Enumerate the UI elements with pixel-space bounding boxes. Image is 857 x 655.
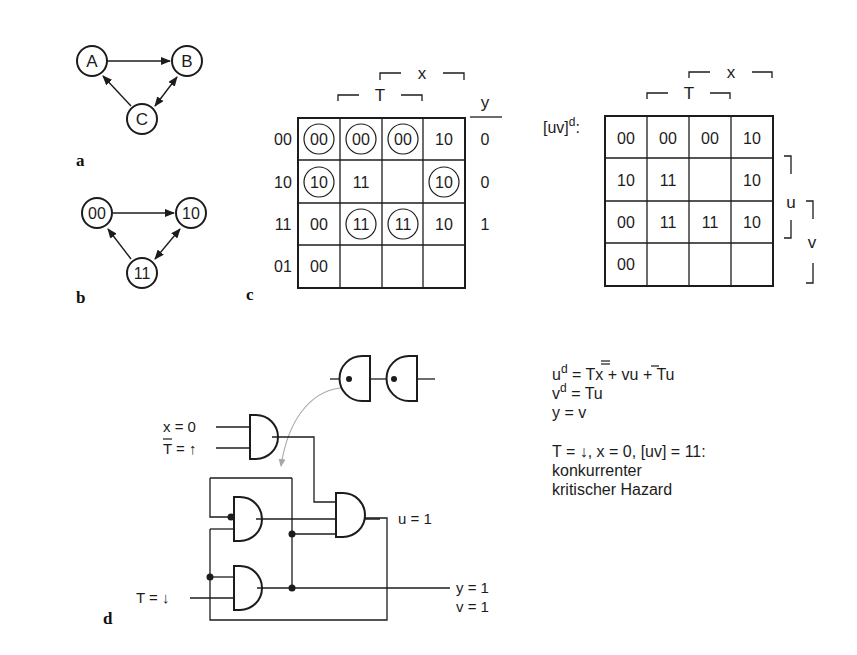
map-cell: 00 bbox=[617, 214, 635, 231]
map-cell: 00 bbox=[617, 130, 635, 147]
table-cell: 10 bbox=[435, 174, 453, 191]
state-node-11: 11 bbox=[127, 258, 157, 288]
row-label: 10 bbox=[274, 174, 292, 191]
map-cell: 10 bbox=[743, 172, 761, 189]
hazard-condition: T = ↓, x = 0, [uv] = 11: bbox=[552, 443, 706, 460]
equation-vd: vd = Tu bbox=[552, 381, 603, 402]
edge-11-to-00 bbox=[108, 229, 131, 259]
table-cell: 00 bbox=[310, 258, 328, 275]
input-label-x: x = 0 bbox=[163, 418, 196, 435]
map-cell: 10 bbox=[743, 130, 761, 147]
svg-text:11: 11 bbox=[134, 265, 151, 282]
row-label: 01 bbox=[274, 258, 292, 275]
bracket-t-right bbox=[401, 95, 422, 101]
bracket-u-bottom bbox=[784, 220, 791, 238]
row-label: 00 bbox=[274, 131, 292, 148]
table-cell: 10 bbox=[435, 131, 453, 148]
table-cell: 00 bbox=[310, 131, 328, 148]
figure-canvas: A B C a 00 10 11 b bbox=[0, 0, 857, 655]
map-cell: 11 bbox=[702, 214, 719, 231]
row-label-v: v bbox=[808, 233, 817, 252]
state-node-b: B bbox=[172, 46, 202, 76]
row-label-u: u bbox=[786, 193, 795, 212]
panel-label-c: c bbox=[246, 285, 254, 304]
table-cell: 00 bbox=[310, 216, 328, 233]
bracket-x-left bbox=[380, 73, 401, 80]
output-value: 0 bbox=[481, 131, 490, 148]
equation-y: y = v bbox=[552, 404, 586, 421]
column-label-t: T bbox=[375, 86, 385, 105]
table-cell: 10 bbox=[310, 174, 328, 191]
map-cell: 10 bbox=[617, 172, 635, 189]
state-node-10: 10 bbox=[176, 198, 206, 228]
hazard-text-line2: kritischer Hazard bbox=[552, 481, 672, 498]
output-value: 1 bbox=[481, 216, 490, 233]
input-label-t: T = ↓ bbox=[136, 589, 170, 606]
edge-11-10-bidirectional bbox=[155, 229, 180, 259]
map-cell: 00 bbox=[617, 256, 635, 273]
bracket-v-top bbox=[806, 201, 813, 219]
table-cell: 00 bbox=[394, 131, 412, 148]
svg-text:B: B bbox=[181, 52, 192, 71]
column-label-x: x bbox=[727, 63, 736, 82]
panel-d-circuit bbox=[190, 356, 450, 620]
svg-text:A: A bbox=[86, 52, 98, 71]
table-cell: 11 bbox=[353, 174, 370, 191]
map-cell: 00 bbox=[701, 130, 719, 147]
table-cell: 11 bbox=[395, 216, 412, 233]
output-value: 0 bbox=[481, 174, 490, 191]
panel-c-flow-table: x T y 00 10 11 01 00 00 00 10 10 bbox=[246, 64, 502, 304]
inverter-chain bbox=[330, 356, 435, 401]
map-title: [uv]d: bbox=[543, 115, 580, 136]
bracket-t-left bbox=[338, 95, 359, 101]
output-label-u: u = 1 bbox=[398, 510, 432, 527]
hazard-text-line1: konkurrenter bbox=[552, 462, 642, 479]
map-cell: 11 bbox=[660, 214, 677, 231]
panel-label-a: a bbox=[76, 151, 85, 170]
output-label-y: y = 1 bbox=[456, 579, 489, 596]
output-label-v: v = 1 bbox=[456, 598, 489, 615]
table-cell: 00 bbox=[352, 131, 370, 148]
or-gate-u bbox=[336, 493, 365, 537]
svg-text:10: 10 bbox=[182, 205, 200, 222]
bracket-u-top bbox=[784, 156, 791, 174]
equations-block: ud = Tx + vu + Tu vd = Tu y = v T = ↓, x… bbox=[552, 361, 706, 498]
panel-label-d: d bbox=[103, 609, 113, 628]
map-cell: 00 bbox=[659, 130, 677, 147]
edge-c-to-a bbox=[103, 76, 131, 106]
state-node-c: C bbox=[127, 104, 157, 134]
pointer-arrow bbox=[281, 388, 340, 466]
table-cell: 11 bbox=[353, 216, 370, 233]
next-state-karnaugh-map: x T [uv]d: 00 00 00 10 10 11 10 00 11 11… bbox=[543, 63, 817, 286]
edge-c-b-bidirectional bbox=[155, 77, 177, 106]
output-header-y: y bbox=[481, 93, 490, 112]
bracket-v-bottom bbox=[806, 263, 813, 283]
row-label: 11 bbox=[275, 216, 292, 233]
map-cell: 10 bbox=[743, 214, 761, 231]
column-label-t: T bbox=[684, 84, 694, 103]
state-node-00: 00 bbox=[82, 198, 112, 228]
equation-ud: ud = Tx + vu + Tu bbox=[552, 362, 674, 383]
table-cell: 10 bbox=[435, 216, 453, 233]
column-label-x: x bbox=[418, 64, 427, 83]
panel-label-b: b bbox=[76, 288, 85, 307]
panel-b-state-graph: 00 10 11 b bbox=[76, 198, 206, 307]
panel-a-state-graph: A B C a bbox=[76, 46, 202, 170]
circuit-labels: x = 0 T = ↑ T = ↓ u = 1 y = 1 v = 1 d bbox=[103, 418, 489, 628]
state-node-a: A bbox=[77, 46, 107, 76]
input-label-tbar: T = ↑ bbox=[163, 440, 197, 457]
svg-text:00: 00 bbox=[88, 205, 106, 222]
svg-text:C: C bbox=[136, 110, 148, 129]
map-cell: 11 bbox=[660, 172, 677, 189]
bracket-x-right bbox=[443, 73, 464, 80]
